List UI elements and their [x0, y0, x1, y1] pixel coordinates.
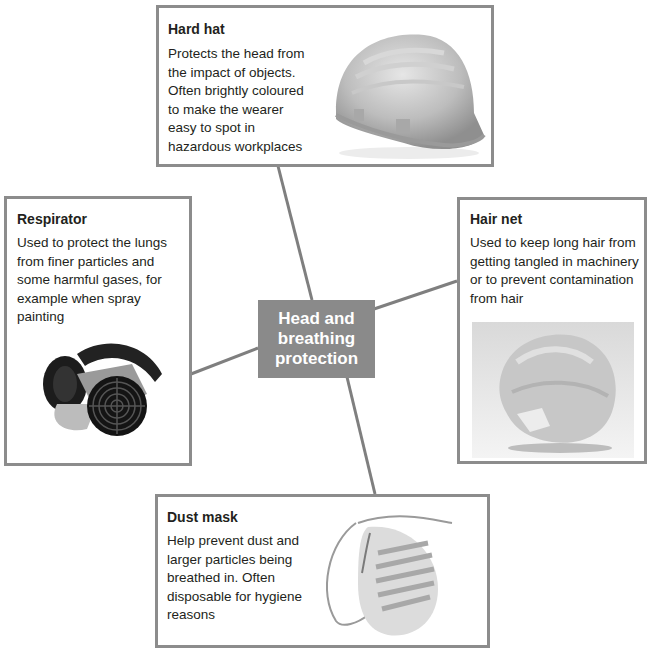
dust-mask-description: Help prevent dust and larger particles b… — [167, 532, 309, 625]
connector-hair-net — [374, 281, 457, 309]
respirator-description: Used to protect the lungs from finer par… — [17, 234, 189, 327]
hard-hat-image — [324, 23, 489, 163]
respirator-card: Respirator Used to protect the lungs fro… — [4, 196, 192, 466]
connector-dust-mask — [347, 377, 375, 494]
hard-hat-title: Hard hat — [168, 21, 225, 37]
dust-mask-image — [318, 503, 458, 643]
dust-mask-title: Dust mask — [167, 509, 238, 525]
hard-hat-description: Protects the head from the impact of obj… — [168, 45, 308, 156]
hair-net-image — [472, 322, 634, 458]
hard-hat-card: Hard hat Protects the head from the impa… — [156, 5, 494, 167]
dust-mask-card: Dust mask Help prevent dust and larger p… — [155, 494, 490, 648]
respirator-image — [37, 334, 177, 444]
hair-net-description: Used to keep long hair from getting tang… — [470, 234, 646, 308]
respirator-title: Respirator — [17, 211, 87, 227]
connector-hard-hat — [278, 166, 312, 300]
center-topic-label: Head and breathing protection — [258, 300, 375, 378]
connector-respirator — [191, 348, 258, 374]
hair-net-title: Hair net — [470, 211, 522, 227]
hair-net-card: Hair net Used to keep long hair from get… — [457, 197, 647, 464]
